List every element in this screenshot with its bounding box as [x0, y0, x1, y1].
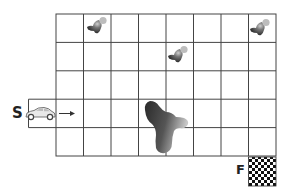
obstacle-blob-icon — [250, 19, 270, 35]
car-icon — [26, 107, 55, 119]
start-label: S — [12, 104, 23, 122]
obstacle-blob-icon — [87, 17, 107, 33]
arrow-right-icon — [59, 111, 75, 116]
finish-label: F — [236, 162, 245, 177]
obstacle-blob-icon — [168, 46, 188, 62]
obstacle-large-blob-icon — [145, 101, 188, 153]
finish-cell — [249, 157, 277, 186]
maze-diagram: S F — [0, 0, 286, 190]
